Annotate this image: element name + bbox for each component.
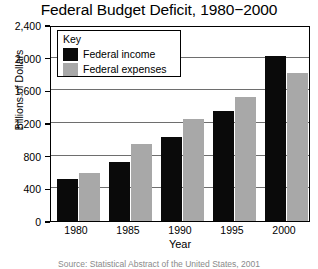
y-tick-mark [45,58,50,59]
legend-label: Federal income [83,48,155,60]
bar-expenses-1980 [79,173,100,221]
y-tick-label: 0 [0,217,41,227]
y-tick-mark [45,189,50,190]
bar-expenses-2000 [287,73,308,221]
y-tick-label: 1,600 [0,86,41,96]
bar-income-1995 [213,111,234,221]
x-axis-title: Year [50,238,310,250]
legend-entries: Federal incomeFederal expenses [63,47,180,76]
bar-group [211,27,256,221]
x-tick-label: 2000 [254,224,314,236]
y-tick-label: 1,200 [0,119,41,129]
source-caption: Source: Statistical Abstract of the Unit… [0,259,318,269]
y-tick-mark [45,123,50,124]
bar-group [263,27,308,221]
bar-income-1990 [161,137,182,221]
bar-expenses-1990 [183,119,204,221]
legend-item: Federal income [63,47,180,61]
y-tick-label: 400 [0,184,41,194]
y-tick-mark [45,156,50,157]
y-tick-label: 2,400 [0,21,41,31]
bar-income-1985 [109,162,130,221]
legend-label: Federal expenses [83,63,166,75]
y-tick-mark [45,25,50,26]
y-tick-mark [45,91,50,92]
legend-swatch-expenses [63,63,78,76]
chart-title: Federal Budget Deficit, 1980−2000 [0,0,318,19]
legend-title: Key [63,33,180,46]
legend: Key Federal incomeFederal expenses [57,30,181,77]
x-tick-label: 1985 [98,224,158,236]
x-tick-label: 1995 [202,224,262,236]
bar-expenses-1985 [131,144,152,221]
legend-item: Federal expenses [63,62,180,76]
y-tick-label: 2,000 [0,54,41,64]
y-tick-mark [45,221,50,222]
y-tick-label: 800 [0,152,41,162]
bar-income-2000 [265,56,286,221]
bar-expenses-1995 [235,97,256,221]
bar-income-1980 [57,179,78,221]
x-tick-label: 1980 [46,224,106,236]
legend-swatch-income [63,48,78,61]
x-tick-label: 1990 [150,224,210,236]
